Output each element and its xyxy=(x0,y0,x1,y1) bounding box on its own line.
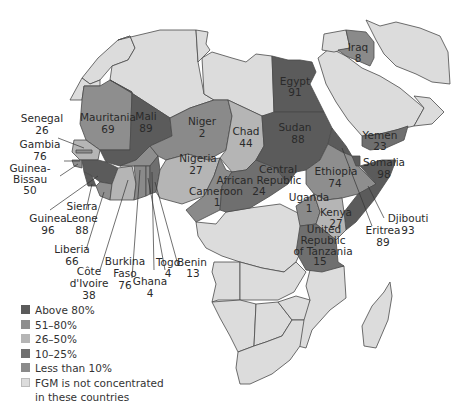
legend-swatch-10-25 xyxy=(21,349,30,358)
value-gambia: 76 xyxy=(33,150,47,162)
value-cote-divoire: 38 xyxy=(82,289,95,301)
label-sierra-leone-2: Leone xyxy=(66,212,98,224)
label-chad: Chad xyxy=(232,125,259,137)
legend-swatch-less-10 xyxy=(21,363,30,372)
country-namibia xyxy=(212,300,256,352)
value-cameroon: 1 xyxy=(214,196,221,208)
label-sudan: Sudan xyxy=(278,121,311,133)
legend: Above 80% 51–80% 26–50% 10–25% Less than… xyxy=(21,303,164,405)
legend-item-51-80: 51–80% xyxy=(21,318,164,333)
label-liberia: Liberia xyxy=(54,243,90,255)
value-sierra-leone: 88 xyxy=(75,224,88,236)
legend-swatch-above-80 xyxy=(21,305,30,314)
country-angola xyxy=(212,262,240,302)
value-iraq: 8 xyxy=(355,52,362,64)
label-cote-divoire-1: Côte xyxy=(77,265,101,277)
value-car: 24 xyxy=(252,185,266,197)
label-nigeria: Nigeria xyxy=(179,152,217,164)
legend-item-not-concentrated: FGM is not concentrated in these countri… xyxy=(21,376,164,405)
value-nigeria: 27 xyxy=(189,164,202,176)
label-sierra-leone-1: Sierra xyxy=(67,200,98,212)
value-yemen: 23 xyxy=(373,140,386,152)
legend-label: FGM is not concentrated in these countri… xyxy=(35,376,164,405)
value-uganda: 1 xyxy=(306,202,313,214)
legend-label: 26–50% xyxy=(35,332,77,347)
label-guinea: Guinea xyxy=(29,212,66,224)
label-eritrea: Eritrea xyxy=(366,224,401,236)
legend-item-10-25: 10–25% xyxy=(21,347,164,362)
legend-label: Less than 10% xyxy=(35,361,112,376)
label-djibouti: Djibouti xyxy=(388,212,429,224)
label-burkina-faso-1: Burkina xyxy=(105,255,145,267)
label-mauritania: Mauritania xyxy=(80,111,136,123)
legend-label-line2: in these countries xyxy=(35,391,129,403)
label-ghana: Ghana xyxy=(133,275,167,287)
legend-item-above-80: Above 80% xyxy=(21,303,164,318)
value-mauritania: 69 xyxy=(101,123,114,135)
value-egypt: 91 xyxy=(288,86,301,98)
legend-swatch-26-50 xyxy=(21,334,30,343)
value-ethiopia: 74 xyxy=(328,177,342,189)
legend-label-line1: FGM is not concentrated xyxy=(35,377,164,389)
value-guinea-bissau: 50 xyxy=(23,184,36,196)
value-chad: 44 xyxy=(239,137,253,149)
label-gambia: Gambia xyxy=(20,138,61,150)
value-eritrea: 89 xyxy=(376,236,389,248)
label-cote-divoire-2: d'Ivoire xyxy=(70,277,109,289)
country-iran xyxy=(366,20,450,84)
legend-label: 10–25% xyxy=(35,347,77,362)
label-ethiopia: Ethiopia xyxy=(315,165,358,177)
value-niger: 2 xyxy=(199,127,206,139)
value-djibouti: 93 xyxy=(401,224,414,236)
value-togo: 4 xyxy=(165,267,172,279)
legend-item-less-10: Less than 10% xyxy=(21,361,164,376)
country-drc-region xyxy=(196,204,306,272)
value-guinea: 96 xyxy=(41,224,55,236)
legend-swatch-not-concentrated xyxy=(21,378,30,387)
label-niger: Niger xyxy=(188,115,217,127)
label-senegal: Senegal xyxy=(21,112,63,124)
legend-swatch-51-80 xyxy=(21,320,30,329)
country-gambia xyxy=(76,150,92,153)
legend-label: Above 80% xyxy=(35,303,95,318)
value-somalia: 98 xyxy=(377,168,390,180)
label-mali: Mali xyxy=(135,110,156,122)
legend-item-26-50: 26–50% xyxy=(21,332,164,347)
value-sudan: 88 xyxy=(291,133,304,145)
value-mali: 89 xyxy=(139,122,152,134)
value-burkina-faso: 76 xyxy=(118,279,132,291)
value-senegal: 26 xyxy=(35,124,49,136)
legend-label: 51–80% xyxy=(35,318,77,333)
value-benin: 13 xyxy=(186,267,199,279)
value-tanzania: 15 xyxy=(313,255,326,267)
value-ghana: 4 xyxy=(147,287,154,299)
label-somalia: Somalia xyxy=(363,156,405,168)
country-liberia xyxy=(96,182,112,200)
country-madagascar xyxy=(362,282,392,348)
country-togo xyxy=(146,166,150,196)
